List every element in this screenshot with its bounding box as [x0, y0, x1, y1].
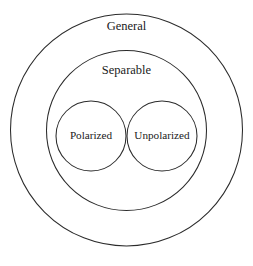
venn-diagram-container: General Separable Polarized Unpolarized [0, 0, 253, 266]
set-circle-general [11, 14, 243, 246]
venn-diagram-svg: General Separable Polarized Unpolarized [0, 0, 253, 266]
set-label-unpolarized: Unpolarized [134, 129, 190, 141]
set-label-separable: Separable [102, 63, 152, 77]
set-label-polarized: Polarized [70, 129, 113, 141]
set-label-general: General [107, 19, 147, 33]
